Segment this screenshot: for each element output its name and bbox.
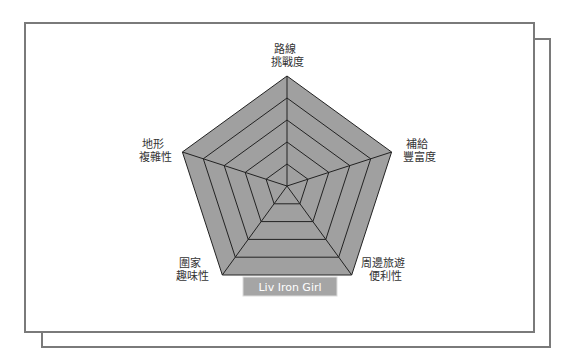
axis-label-4: 地形 複雜性 bbox=[139, 138, 172, 164]
radar-chart: 路線 挑戰度 補給 豐富度 周邊旅遊 便利性 圍家 趣味性 地形 複雜性 Liv… bbox=[0, 0, 579, 360]
axis-label-0: 路線 挑戰度 bbox=[271, 42, 304, 69]
legend-label: Liv Iron Girl bbox=[258, 281, 321, 294]
legend: Liv Iron Girl bbox=[243, 277, 337, 296]
axis-label-1: 補給 豐富度 bbox=[403, 137, 436, 164]
axis-label-3: 圍家 趣味性 bbox=[176, 256, 209, 283]
axis-label-2: 周邊旅遊 便利性 bbox=[361, 256, 409, 283]
